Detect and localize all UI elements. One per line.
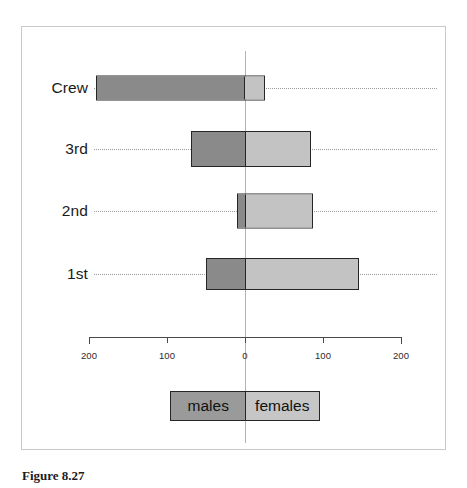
bar-row-crew: Crew bbox=[22, 65, 447, 111]
figure-caption: Figure 8.27 bbox=[22, 468, 85, 484]
legend-entry-females: females bbox=[245, 392, 320, 420]
axis-tick-label-neg200: 200 bbox=[81, 350, 97, 361]
chart-legend: males females bbox=[22, 391, 447, 425]
bar-crew bbox=[96, 76, 265, 101]
category-label-2nd: 2nd bbox=[22, 202, 88, 220]
axis-tick-label-pos100: 100 bbox=[315, 350, 331, 361]
category-label-3rd: 3rd bbox=[22, 140, 88, 158]
axis-tick-neg100 bbox=[167, 337, 168, 343]
axis-tick-pos100 bbox=[323, 337, 324, 343]
bar-segment-males-crew bbox=[97, 77, 245, 100]
legend-box: males females bbox=[170, 391, 320, 421]
bar-segment-males-1st bbox=[207, 259, 246, 289]
category-label-crew: Crew bbox=[22, 79, 88, 97]
legend-entry-males: males bbox=[171, 392, 246, 420]
bar-segment-females-2nd bbox=[245, 195, 312, 228]
x-axis: 200 100 0 100 200 bbox=[22, 337, 447, 383]
axis-tick-label-pos200: 200 bbox=[393, 350, 409, 361]
axis-tick-neg200 bbox=[89, 337, 90, 344]
bar-segment-females-crew bbox=[244, 77, 264, 100]
bar-row-3rd: 3rd bbox=[22, 126, 447, 172]
figure-panel: Crew 3rd 2nd 1st bbox=[21, 26, 446, 450]
axis-tick-zero bbox=[245, 337, 246, 343]
bar-3rd bbox=[191, 131, 311, 167]
axis-tick-label-zero: 0 bbox=[242, 350, 247, 361]
axis-tick-pos200 bbox=[401, 337, 402, 344]
bar-row-2nd: 2nd bbox=[22, 188, 447, 234]
plot-area: Crew 3rd 2nd 1st bbox=[22, 27, 447, 451]
bar-segment-females-3rd bbox=[245, 132, 310, 166]
bar-segment-males-3rd bbox=[192, 132, 246, 166]
category-label-1st: 1st bbox=[22, 265, 88, 283]
bar-1st bbox=[206, 258, 359, 290]
bar-row-1st: 1st bbox=[22, 251, 447, 297]
bar-2nd bbox=[237, 194, 313, 229]
axis-tick-label-neg100: 100 bbox=[159, 350, 175, 361]
bar-segment-females-1st bbox=[245, 259, 358, 289]
